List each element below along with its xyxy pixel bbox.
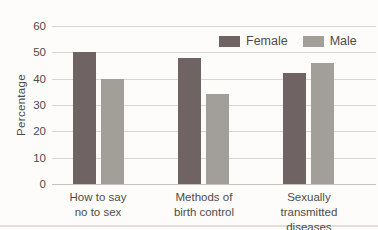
plot-area (52, 26, 376, 184)
bar-male-category-1 (101, 79, 124, 184)
bar-male-category-2 (206, 94, 229, 184)
legend-entry-male: Male (303, 34, 357, 48)
bar-female-category-3 (283, 73, 306, 184)
bar-chart-figure: Percentage Female Male 0102030405060How … (0, 0, 378, 230)
x-category-label-2: Methods of birth control (174, 190, 234, 220)
legend-entry-female: Female (219, 34, 288, 48)
gridline-60 (52, 26, 376, 27)
y-tick-label-30: 30 (14, 99, 46, 111)
gridline-0 (52, 184, 376, 185)
gridline-50 (52, 52, 376, 53)
x-category-label-3: Sexually transmitted diseases (274, 190, 343, 230)
y-tick-label-0: 0 (14, 178, 46, 190)
y-tick-label-40: 40 (14, 73, 46, 85)
legend-label-female: Female (246, 34, 288, 48)
y-tick-label-10: 10 (14, 152, 46, 164)
legend-swatch-female (219, 36, 240, 47)
x-category-label-1: How to say no to sex (70, 190, 127, 220)
bar-male-category-3 (311, 63, 334, 184)
legend-label-male: Male (330, 34, 357, 48)
y-tick-label-20: 20 (14, 125, 46, 137)
y-tick-label-50: 50 (14, 46, 46, 58)
y-tick-label-60: 60 (14, 20, 46, 32)
legend: Female Male (219, 34, 357, 48)
bar-female-category-1 (73, 52, 96, 184)
legend-swatch-male (303, 36, 324, 47)
bar-female-category-2 (178, 58, 201, 184)
